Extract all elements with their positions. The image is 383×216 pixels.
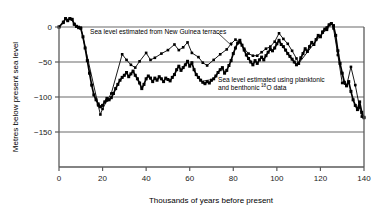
x-tick-label-2: 40	[142, 174, 151, 183]
series-1-marker	[347, 80, 350, 83]
series-1-marker	[339, 62, 342, 65]
series-1-marker	[151, 80, 154, 83]
series-1-marker	[81, 35, 84, 38]
series-1-marker	[171, 76, 174, 79]
series-0-marker	[354, 84, 357, 87]
series-1-marker	[334, 34, 337, 37]
series-0-marker	[286, 43, 289, 46]
series-1-marker	[256, 62, 259, 65]
series-1-marker	[319, 35, 322, 38]
series-1-marker	[321, 30, 324, 33]
series-1-marker	[134, 74, 137, 77]
annotation-isotope-prefix: and benthonic	[218, 84, 260, 91]
series-0-marker	[219, 53, 222, 56]
series-0-marker	[186, 41, 189, 44]
sea-level-chart: 020406080100120140 0−50−100−150 Thousand…	[0, 0, 383, 216]
series-0-marker	[234, 38, 237, 41]
series-0-marker	[252, 54, 255, 57]
series-1-marker	[79, 27, 82, 30]
series-1-marker	[217, 71, 220, 74]
series-1-marker	[275, 42, 278, 45]
series-1-marker	[264, 54, 267, 57]
series-1-marker	[132, 70, 135, 73]
series-0-marker	[256, 54, 259, 57]
series-1-marker	[284, 49, 287, 52]
x-tick-label-7: 140	[357, 174, 371, 183]
y-axis-title: Metres below present sea level	[11, 42, 20, 153]
series-0-marker	[269, 45, 272, 48]
series-1-marker	[245, 54, 248, 57]
series-0-marker	[130, 64, 133, 67]
series-1-marker	[358, 100, 361, 103]
series-1-marker	[138, 82, 141, 85]
x-tick-label-1: 20	[98, 174, 107, 183]
series-1-marker	[291, 58, 294, 61]
series-1-marker	[103, 100, 106, 103]
series-1-marker	[343, 81, 346, 84]
series-1-marker	[341, 72, 344, 75]
series-0-marker	[99, 113, 102, 116]
series-1-marker	[308, 45, 311, 48]
series-1-marker	[173, 73, 176, 76]
series-1-marker	[352, 98, 355, 101]
series-0-marker	[178, 49, 181, 52]
series-0-marker	[265, 47, 268, 50]
series-0-marker	[125, 59, 128, 62]
series-1-marker	[354, 104, 357, 107]
series-1-marker	[62, 21, 65, 24]
series-1-marker	[125, 71, 128, 74]
series-1-marker	[97, 103, 100, 106]
x-tick-label-3: 60	[185, 174, 194, 183]
y-tick-label-1: −50	[38, 58, 52, 67]
annotation-isotope-line2: and benthonic18O data	[218, 83, 287, 91]
series-1-marker	[345, 84, 348, 87]
series-0-marker	[197, 56, 200, 59]
series-0-marker	[173, 43, 176, 46]
series-0-marker	[145, 52, 148, 55]
series-1-marker	[127, 75, 130, 78]
series-1-marker	[149, 77, 152, 80]
series-0-marker	[291, 50, 294, 53]
series-1-marker	[221, 66, 224, 69]
series-1-marker	[169, 79, 172, 82]
series-1-marker	[251, 63, 254, 66]
series-1-marker	[197, 76, 200, 79]
series-0-marker	[167, 49, 170, 52]
x-tick-label-6: 120	[314, 174, 328, 183]
series-1-marker	[119, 79, 122, 82]
series-0-marker	[134, 66, 137, 69]
series-1-marker	[304, 47, 307, 50]
series-0-marker	[182, 46, 185, 49]
series-1-marker	[234, 47, 237, 50]
series-1-marker	[175, 68, 178, 71]
series-1-marker	[116, 83, 119, 86]
series-1-marker	[271, 49, 274, 52]
series-0-marker	[225, 48, 228, 51]
series-1-marker	[184, 63, 187, 66]
series-1-marker	[193, 68, 196, 71]
series-0-marker	[295, 57, 298, 60]
series-1-marker	[306, 50, 309, 53]
series-1-marker	[360, 111, 363, 114]
series-0-marker	[154, 57, 157, 60]
series-1-marker	[214, 75, 217, 78]
series-1-marker	[336, 49, 339, 52]
series-1-marker	[225, 69, 228, 72]
series-0-marker	[206, 64, 209, 67]
series-1-marker	[142, 83, 145, 86]
series-1-marker	[278, 39, 281, 42]
y-tick-group: 0−50−100−150	[34, 23, 59, 137]
series-0-marker	[160, 52, 163, 55]
series-0-marker	[212, 59, 215, 62]
series-1-marker	[286, 52, 289, 55]
series-1-marker	[129, 72, 132, 75]
y-tick-label-2: −100	[34, 93, 53, 102]
series-1-marker	[332, 24, 335, 27]
series-1-marker	[145, 77, 148, 80]
series-1-marker	[254, 59, 257, 62]
series-1-marker	[95, 98, 98, 101]
series-1-marker	[312, 43, 315, 46]
series-1-marker	[92, 93, 95, 96]
annotation-isotope-suffix: O data	[267, 84, 287, 91]
annotation-new-guinea-terraces: Sea level estimated from New Guinea terr…	[90, 28, 227, 35]
